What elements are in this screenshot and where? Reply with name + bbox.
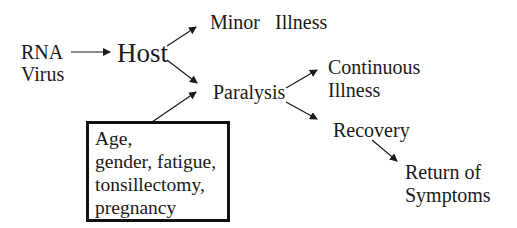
node-rna-virus-line1: RNA: [21, 42, 63, 62]
diagram-canvas: RNA Virus Host Minor Illness Paralysis C…: [0, 0, 517, 228]
node-paralysis: Paralysis: [213, 82, 285, 102]
node-recovery: Recovery: [333, 120, 410, 140]
arrow-paralysis-to-continuous: [286, 70, 317, 88]
node-return-of-symptoms-line1: Return of: [405, 162, 481, 182]
risk-factor-line: tonsillectomy,: [89, 173, 227, 196]
risk-factor-line: pregnancy: [89, 196, 227, 219]
risk-factor-line: Age,: [89, 127, 227, 150]
risk-factor-line: gender, fatigue,: [89, 150, 227, 173]
node-rna-virus-line2: Virus: [21, 64, 64, 84]
node-host: Host: [117, 40, 168, 67]
arrow-recovery-to-return: [372, 140, 397, 161]
arrow-paralysis-to-recovery: [286, 102, 317, 119]
arrow-factors-to-paralysis: [152, 92, 196, 122]
node-continuous-illness-line2: Illness: [328, 80, 380, 100]
node-minor-illness: Minor Illness: [210, 12, 327, 32]
risk-factors-box: Age, gender, fatigue, tonsillectomy, pre…: [86, 121, 230, 222]
arrow-host-to-paralysis: [167, 60, 197, 83]
node-continuous-illness-line1: Continuous: [328, 57, 420, 77]
node-return-of-symptoms-line2: Symptoms: [405, 185, 491, 205]
arrow-host-to-minor-illness: [167, 27, 196, 46]
